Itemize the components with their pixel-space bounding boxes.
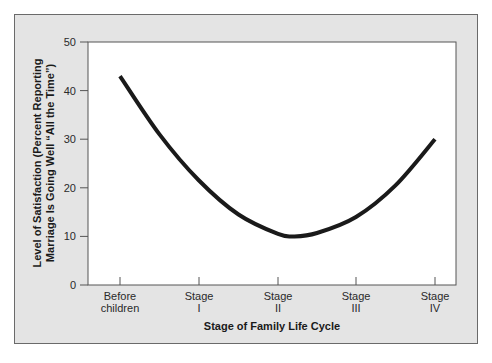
- x-tick-label: Stage: [421, 290, 450, 302]
- y-tick-label: 10: [64, 230, 76, 242]
- x-tick-label: III: [351, 302, 360, 314]
- x-tick-label: Stage: [342, 290, 371, 302]
- y-axis-title: Level of Satisfaction (Percent Reporting…: [31, 58, 56, 267]
- y-axis: 01020304050: [64, 36, 88, 291]
- y-axis-title-line2: Marriage Is Going Well “All the Time”): [44, 64, 56, 263]
- y-tick-label: 50: [64, 36, 76, 48]
- x-tick-label: I: [197, 302, 200, 314]
- chart-svg: 01020304050 BeforechildrenStageIStageIIS…: [0, 0, 492, 363]
- y-tick-label: 40: [64, 85, 76, 97]
- x-axis-title: Stage of Family Life Cycle: [204, 320, 340, 332]
- plot-area: [88, 42, 456, 285]
- x-tick-label: Stage: [185, 290, 214, 302]
- y-axis-title-line1: Level of Satisfaction (Percent Reporting: [31, 58, 43, 267]
- x-tick-label: children: [101, 302, 140, 314]
- x-tick-label: Before: [104, 290, 136, 302]
- y-tick-label: 20: [64, 182, 76, 194]
- x-tick-label: Stage: [264, 290, 293, 302]
- x-tick-label: IV: [430, 302, 441, 314]
- y-tick-label: 30: [64, 133, 76, 145]
- y-tick-label: 0: [70, 279, 76, 291]
- x-tick-label: II: [275, 302, 281, 314]
